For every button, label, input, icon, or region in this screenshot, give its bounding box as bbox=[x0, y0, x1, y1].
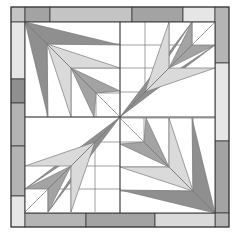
border-right-piece-0 bbox=[215, 7, 229, 63]
border-bottom-piece-2 bbox=[155, 213, 215, 227]
border-right-piece-2 bbox=[215, 141, 229, 213]
border-top-piece-3 bbox=[132, 7, 183, 22]
border-bottom-piece-0 bbox=[25, 213, 86, 227]
border-right-piece-3 bbox=[215, 213, 229, 227]
quilt-block-diagram bbox=[0, 0, 238, 232]
border-top-piece-0 bbox=[11, 7, 25, 22]
border-left-piece-3 bbox=[11, 146, 25, 196]
border-left-piece-4 bbox=[11, 196, 25, 227]
border-bottom-piece-1 bbox=[86, 213, 155, 227]
border-top-piece-2 bbox=[50, 7, 132, 22]
border-right-piece-1 bbox=[215, 63, 229, 141]
border-top-piece-4 bbox=[183, 7, 215, 22]
border-left-piece-1 bbox=[11, 79, 25, 103]
border-left-piece-0 bbox=[11, 22, 25, 79]
border-left-piece-2 bbox=[11, 103, 25, 146]
border-top-piece-1 bbox=[25, 7, 50, 22]
